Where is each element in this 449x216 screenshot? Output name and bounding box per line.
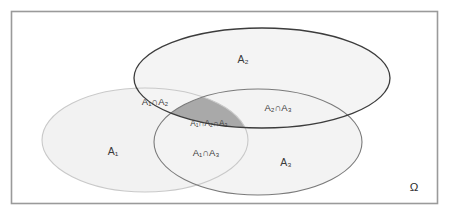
region-label-a1-a2: A₁∩A₂ [142, 96, 169, 107]
region-label-a1-a2-a3: A₁∩A₂∩A₃ [190, 119, 227, 128]
region-label-a1-a3: A₁∩A₃ [193, 147, 220, 158]
region-label-a2-a3: A₂∩A₃ [264, 102, 291, 113]
region-label-a1-only: A₁ [108, 145, 119, 157]
region-label-a3-only: A₃ [280, 156, 291, 168]
venn-diagram-svg: A₁ A₂ A₃ A₁∩A₂ A₂∩A₃ A₁∩A₃ A₁∩A₂∩A₃ Ω [0, 0, 449, 216]
region-label-a2-only: A₂ [237, 53, 248, 65]
venn-diagram-container: A₁ A₂ A₃ A₁∩A₂ A₂∩A₃ A₁∩A₃ A₁∩A₂∩A₃ Ω [0, 0, 449, 216]
universe-label-omega: Ω [410, 181, 419, 193]
